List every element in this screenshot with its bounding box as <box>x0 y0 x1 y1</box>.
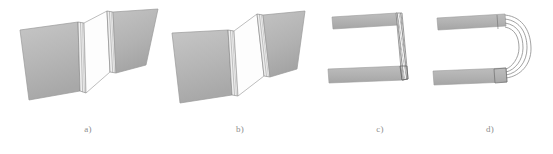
panel-caption-c: c) <box>360 124 400 134</box>
panel-a-drawing <box>20 9 158 100</box>
panel-d-upper-bar <box>437 14 506 30</box>
figure-container: a) b) c) d) <box>0 0 553 154</box>
panel-c-lower-bar <box>328 66 404 83</box>
panel-b-left-plate <box>172 30 232 103</box>
panel-d-lower-bar <box>433 68 507 85</box>
panel-caption-a: a) <box>68 124 108 134</box>
panel-c-drawing <box>328 13 408 83</box>
panel-a-left-plate <box>20 22 80 100</box>
panel-b-right-plate <box>263 11 305 77</box>
panel-caption-b: b) <box>220 124 260 134</box>
panel-d-drawing <box>433 14 531 85</box>
panel-a-hinge-panel <box>84 11 110 93</box>
panel-d-arc-3 <box>505 23 523 72</box>
panel-c-upper-bar <box>332 13 398 29</box>
panel-d-arc-4 <box>505 27 519 69</box>
panel-b-drawing <box>172 11 305 103</box>
panel-a-right-plate <box>113 9 158 73</box>
panel-caption-d: d) <box>470 124 510 134</box>
